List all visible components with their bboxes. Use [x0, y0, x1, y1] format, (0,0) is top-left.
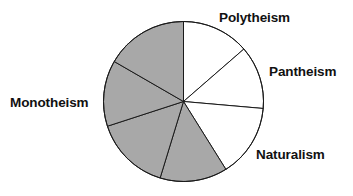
pie-slices-group: [104, 22, 264, 182]
pie-label-monotheism: Monotheism: [10, 96, 89, 110]
pie-chart-figure: Polytheism Pantheism Naturalism Monothei…: [0, 0, 353, 196]
pie-label-pantheism: Pantheism: [269, 65, 336, 79]
pie-label-polytheism: Polytheism: [219, 11, 290, 25]
pie-label-naturalism: Naturalism: [256, 148, 325, 162]
